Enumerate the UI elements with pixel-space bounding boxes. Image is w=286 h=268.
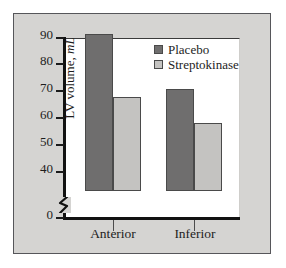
legend-swatch-placebo bbox=[154, 45, 163, 54]
y-tick-label-60: 60 bbox=[40, 108, 53, 121]
bar-inferior-placebo bbox=[166, 89, 194, 191]
y-tick-50: 50 bbox=[56, 144, 64, 146]
y-tick-label-90: 90 bbox=[40, 28, 53, 41]
y-tick-label-70: 70 bbox=[40, 81, 53, 94]
x-axis-label-inferior: Inferior bbox=[160, 227, 230, 241]
y-axis-title-text: LV volume, bbox=[62, 57, 77, 118]
y-tick-0: 0 bbox=[56, 217, 64, 219]
y-tick-label-50: 50 bbox=[40, 135, 53, 148]
legend-label-placebo: Placebo bbox=[168, 43, 209, 56]
legend-item-placebo: Placebo bbox=[154, 42, 239, 56]
legend-item-streptokinase: Streptokinase bbox=[154, 57, 239, 71]
y-tick-label-40: 40 bbox=[40, 162, 53, 175]
legend-swatch-streptokinase bbox=[154, 60, 163, 69]
y-tick-label-80: 80 bbox=[40, 54, 53, 67]
legend-label-streptokinase: Streptokinase bbox=[168, 58, 239, 71]
x-axis-line bbox=[63, 217, 240, 220]
bar-inferior-streptokinase bbox=[194, 123, 222, 191]
y-axis-title-unit: mL bbox=[62, 37, 77, 57]
y-tick-40: 40 bbox=[56, 171, 64, 173]
y-axis-title: LV volume, mL bbox=[62, 18, 78, 138]
axis-break-icon bbox=[57, 197, 71, 213]
bar-anterior-streptokinase bbox=[113, 97, 141, 191]
x-axis-label-anterior: Anterior bbox=[77, 227, 149, 241]
bar-anterior-placebo bbox=[85, 34, 113, 191]
legend: Placebo Streptokinase bbox=[154, 42, 239, 72]
y-tick-label-0: 0 bbox=[47, 208, 54, 221]
figure-panel: 90 80 70 60 50 40 0 Anterior Inferior LV… bbox=[13, 13, 271, 254]
